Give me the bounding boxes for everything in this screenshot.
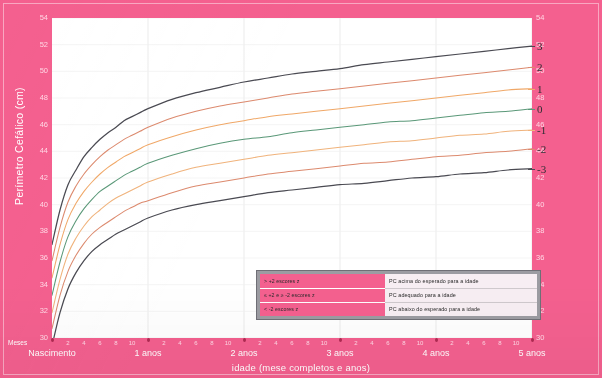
x-month-tick-label: 4 (365, 340, 379, 347)
months-unit-label: Meses (8, 339, 27, 347)
x-month-tick-label: 10 (317, 340, 331, 347)
x-year-tick (50, 338, 55, 343)
x-month-tick-label: 8 (301, 340, 315, 347)
growth-chart-page: Perímetro Cefálico (cm) 3032343638404244… (0, 0, 602, 378)
x-month-tick-label: 2 (349, 340, 363, 347)
legend-row: ≤ +2 e ≥ -2 escores zPC adequado para a … (260, 288, 537, 302)
legend-category: > +2 escores z (260, 274, 385, 288)
legend-box: > +2 escores zPC acima do esperado para … (256, 270, 541, 320)
x-month-tick-label: 2 (445, 340, 459, 347)
x-month-tick-label: 8 (493, 340, 507, 347)
x-year-tick (434, 338, 439, 343)
z-score-label-1: 1 (537, 84, 559, 95)
x-month-tick-label: 10 (509, 340, 523, 347)
z-score-label-3: 3 (537, 41, 559, 52)
z-score-leader-2 (528, 67, 535, 68)
y-tick-label-right: 48 (536, 94, 560, 102)
x-month-tick-label: 6 (189, 340, 203, 347)
legend-table: > +2 escores zPC acima do esperado para … (260, 274, 537, 316)
x-month-tick-label: 10 (413, 340, 427, 347)
curve-z1 (52, 89, 532, 278)
y-tick-label: 36 (24, 254, 48, 262)
z-score-label--1: -1 (537, 125, 559, 136)
z-score-leader--1 (528, 130, 535, 131)
x-month-tick-label: 8 (397, 340, 411, 347)
x-month-tick-label: 4 (461, 340, 475, 347)
z-score-leader--3 (528, 169, 535, 170)
x-month-tick-label: 6 (285, 340, 299, 347)
z-score-label--3: -3 (537, 164, 559, 175)
y-tick-label: 42 (24, 174, 48, 182)
x-year-tick (242, 338, 247, 343)
x-month-tick-label: 2 (157, 340, 171, 347)
x-year-label: Nascimento (17, 348, 87, 359)
z-score-leader-3 (528, 46, 535, 47)
z-score-label--2: -2 (537, 144, 559, 155)
y-tick-label-right: 42 (536, 174, 560, 182)
x-month-tick-label: 4 (173, 340, 187, 347)
x-month-tick-label: 2 (253, 340, 267, 347)
legend-description: PC abaixo do esperado para a idade (385, 302, 537, 316)
z-score-leader-1 (528, 89, 535, 90)
x-month-tick-label: 6 (381, 340, 395, 347)
z-score-label-2: 2 (537, 62, 559, 73)
x-year-tick (530, 338, 535, 343)
curve-z0 (52, 109, 532, 296)
y-tick-label: 48 (24, 94, 48, 102)
x-month-tick-label: 6 (93, 340, 107, 347)
x-month-tick-label: 8 (109, 340, 123, 347)
y-tick-label-right: 36 (536, 254, 560, 262)
x-month-tick-label: 10 (221, 340, 235, 347)
legend-row: < -2 escores zPC abaixo do esperado para… (260, 302, 537, 316)
x-year-label: 1 anos (113, 348, 183, 359)
x-year-tick (146, 338, 151, 343)
legend-category: < -2 escores z (260, 302, 385, 316)
x-year-label: 4 anos (401, 348, 471, 359)
y-tick-label: 30 (24, 334, 48, 342)
y-tick-label: 32 (24, 307, 48, 315)
z-score-leader--2 (528, 149, 535, 150)
x-month-tick-label: 6 (477, 340, 491, 347)
z-score-leader-0 (528, 109, 535, 110)
x-year-tick (338, 338, 343, 343)
x-month-tick-label: 2 (61, 340, 75, 347)
legend-category: ≤ +2 e ≥ -2 escores z (260, 288, 385, 302)
x-year-label: 2 anos (209, 348, 279, 359)
y-tick-label-right: 40 (536, 201, 560, 209)
x-month-tick-label: 4 (77, 340, 91, 347)
legend-description: PC acima do esperado para a idade (385, 274, 537, 288)
y-tick-label-right: 30 (536, 334, 560, 342)
y-tick-label: 46 (24, 121, 48, 129)
x-year-label: 5 anos (497, 348, 567, 359)
x-month-tick-label: 10 (125, 340, 139, 347)
y-tick-label: 52 (24, 41, 48, 49)
y-tick-label: 40 (24, 201, 48, 209)
x-year-label: 3 anos (305, 348, 375, 359)
z-score-label-0: 0 (537, 104, 559, 115)
y-tick-label: 54 (24, 14, 48, 22)
y-tick-label: 50 (24, 67, 48, 75)
y-tick-label: 34 (24, 281, 48, 289)
y-tick-label-right: 38 (536, 227, 560, 235)
x-month-tick-label: 4 (269, 340, 283, 347)
x-axis-title: idade (mese completos e anos) (0, 362, 602, 373)
y-tick-label: 44 (24, 147, 48, 155)
y-tick-label: 38 (24, 227, 48, 235)
legend-row: > +2 escores zPC acima do esperado para … (260, 274, 537, 288)
y-tick-label-right: 54 (536, 14, 560, 22)
x-month-tick-label: 8 (205, 340, 219, 347)
legend-description: PC adequado para a idade (385, 288, 537, 302)
legend-body: > +2 escores zPC acima do esperado para … (260, 274, 537, 316)
